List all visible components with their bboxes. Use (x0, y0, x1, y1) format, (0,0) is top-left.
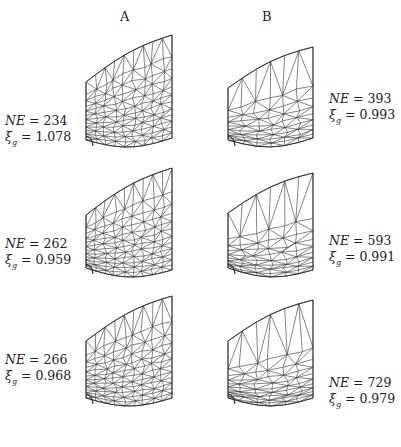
mesh-b3 (228, 300, 313, 406)
mesh-a3 (86, 296, 172, 406)
mesh-b1 (228, 47, 313, 147)
mesh-a1 (86, 35, 172, 147)
mesh-figure (0, 0, 401, 447)
mesh-a2 (86, 168, 172, 277)
mesh-b2 (228, 173, 313, 277)
